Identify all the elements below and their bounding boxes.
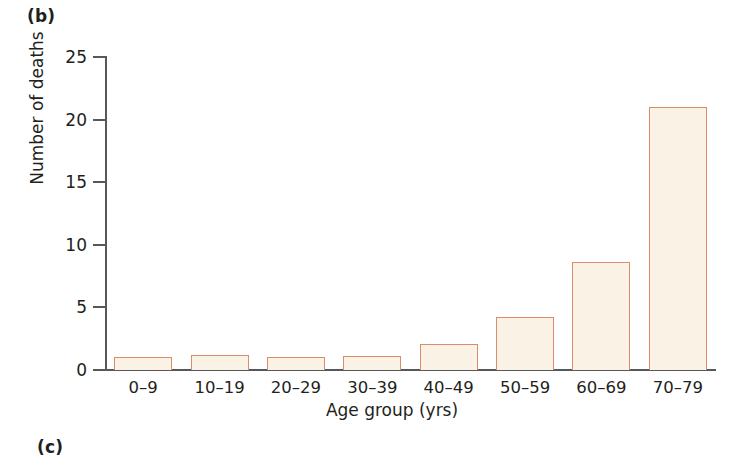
y-axis-tick — [93, 181, 105, 183]
x-axis-tick-label: 10–19 — [194, 378, 244, 397]
x-axis-title-text: Age group (yrs) — [284, 400, 458, 420]
y-axis-title: Number of deaths — [27, 0, 47, 223]
x-axis-tick-label: 60–69 — [576, 378, 626, 397]
x-axis-tick-label: 70–79 — [653, 378, 703, 397]
x-axis-tick-label: 30–39 — [347, 378, 397, 397]
y-axis-tick — [93, 306, 105, 308]
y-axis-tick-label: 25 — [47, 47, 87, 67]
y-axis-tick — [93, 369, 105, 371]
y-axis-tick — [93, 119, 105, 121]
x-axis-tick-label: 40–49 — [424, 378, 474, 397]
bar — [649, 107, 707, 370]
bar — [267, 357, 325, 370]
bar — [496, 317, 554, 370]
y-axis-tick — [93, 244, 105, 246]
y-axis-tick-label: 5 — [47, 297, 87, 317]
x-axis-tick-label: 50–59 — [500, 378, 550, 397]
y-axis-tick-label: 10 — [47, 235, 87, 255]
bar-chart: 0510152025 0–910–1920–2930–3940–4950–596… — [0, 0, 742, 430]
panel-label-c: (c) — [37, 437, 63, 457]
bar — [572, 262, 630, 370]
y-axis-tick-label: 15 — [47, 172, 87, 192]
bar — [420, 344, 478, 370]
y-axis-tick-label: 0 — [47, 360, 87, 380]
bar — [114, 357, 172, 370]
y-axis-tick-label: 20 — [47, 110, 87, 130]
bar — [191, 355, 249, 370]
x-axis-tick-label: 20–29 — [271, 378, 321, 397]
bar — [343, 356, 401, 370]
x-axis-title: Age group (yrs) — [0, 400, 742, 420]
y-axis-line — [105, 56, 107, 371]
y-axis-tick — [93, 56, 105, 58]
x-axis-tick-label: 0–9 — [129, 378, 158, 397]
